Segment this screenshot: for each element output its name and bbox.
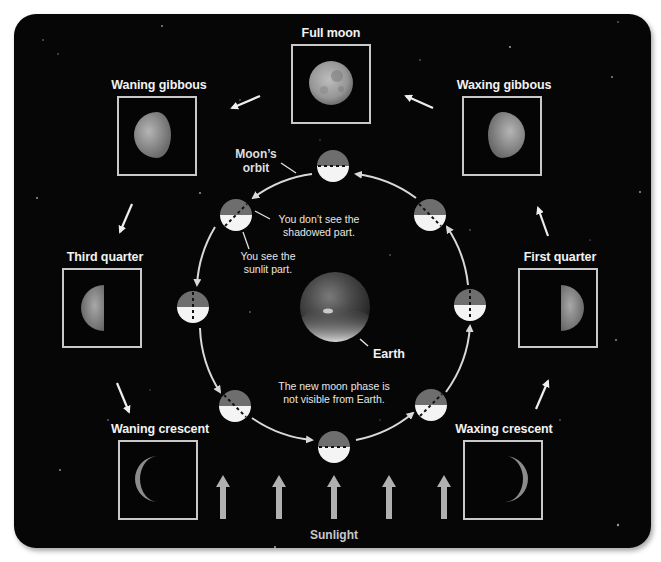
sunlight-arrow-icon <box>272 475 286 519</box>
waning-crescent-icon <box>120 442 196 518</box>
new-moon-note: The new moon phase is not visible from E… <box>278 380 389 406</box>
earth-label: Earth <box>373 347 405 361</box>
orbit-label-line2: orbit <box>235 161 277 175</box>
sunlight-arrow-icon <box>327 475 341 519</box>
label-waxing-crescent: Waxing crescent <box>455 422 552 436</box>
waxing-crescent-icon <box>465 442 541 518</box>
box-waning-gibbous <box>117 96 197 176</box>
sunlit-note: You see the sunlit part. <box>240 250 295 276</box>
first-quarter-icon <box>520 270 596 346</box>
box-waning-crescent <box>118 440 198 520</box>
sunlight-arrow-icon <box>437 475 451 519</box>
box-first-quarter <box>518 268 598 348</box>
orbit-label: Moon’s orbit <box>235 147 277 175</box>
box-full-moon <box>291 44 371 124</box>
orbit-label-line1: Moon’s <box>235 147 277 161</box>
label-first-quarter: First quarter <box>524 250 596 264</box>
waxing-gibbous-icon <box>464 98 540 174</box>
label-waxing-gibbous: Waxing gibbous <box>457 78 552 92</box>
sunlight-label: Sunlight <box>310 528 358 542</box>
orbit-moon-right <box>454 289 486 321</box>
box-waxing-crescent <box>463 440 543 520</box>
new-moon-note-line2: not visible from Earth. <box>278 393 389 406</box>
sunlit-note-line2: sunlit part. <box>240 263 295 276</box>
box-third-quarter <box>62 268 142 348</box>
orbit-moon-left <box>177 291 209 323</box>
shadow-note-line1: You don’t see the <box>279 213 360 226</box>
sunlight-arrow-icon <box>382 475 396 519</box>
orbit-moon-upper-right <box>414 199 446 231</box>
new-moon-note-line1: The new moon phase is <box>278 380 389 393</box>
label-waning-gibbous: Waning gibbous <box>111 78 206 92</box>
waning-gibbous-icon <box>119 98 195 174</box>
label-third-quarter: Third quarter <box>67 250 143 264</box>
orbit-leader-line <box>281 163 296 173</box>
orbit-moon-lower-left <box>219 390 251 422</box>
box-waxing-gibbous <box>462 96 542 176</box>
sunlit-note-line1: You see the <box>240 250 295 263</box>
earth-icon <box>300 272 370 342</box>
orbit-moon-upper-left <box>220 199 252 231</box>
label-full-moon: Full moon <box>302 26 361 40</box>
shadow-note-line2: shadowed part. <box>279 226 360 239</box>
shadow-note: You don’t see the shadowed part. <box>279 213 360 239</box>
diagram-panel: Full moon Waning gibbous Waxing gibbous … <box>14 14 651 548</box>
full-moon-icon <box>293 46 369 122</box>
label-waning-crescent: Waning crescent <box>111 422 209 436</box>
sunlight-arrows <box>216 475 451 519</box>
sunlight-arrow-icon <box>216 475 230 519</box>
shadow-leader-line <box>255 211 270 219</box>
third-quarter-icon <box>64 270 140 346</box>
earth-leader-line <box>360 339 368 346</box>
orbit-moon-lower-right <box>415 389 447 421</box>
orbit-moon-top <box>317 150 349 182</box>
orbit-moon-bottom <box>318 431 350 463</box>
sunlit-leader-line <box>243 232 249 249</box>
